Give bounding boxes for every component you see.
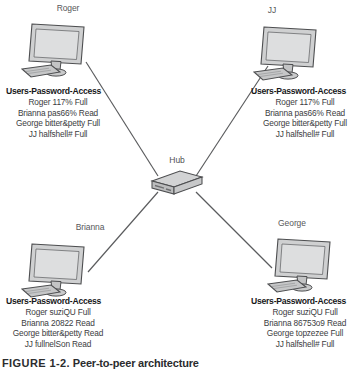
- credential-row: George topzezee Full: [251, 328, 359, 339]
- credential-row: Brianna 20822 Read: [6, 318, 110, 329]
- credentials-title: Users-Password-Access: [251, 296, 361, 307]
- node-label-george: George: [262, 218, 322, 228]
- credentials-title: Users-Password-Access: [6, 296, 166, 307]
- credential-row: JJ halfshell# Full: [6, 129, 110, 140]
- figure-caption: FIGURE 1-2. Peer-to-peer architecture: [2, 357, 361, 369]
- credentials-title: Users-Password-Access: [251, 86, 361, 97]
- credential-row: Brianna pas66% Read: [251, 108, 359, 119]
- credential-row: George bitter&petty Full: [6, 118, 110, 129]
- credentials-block-brianna: Users-Password-Access Roger suziQU Full …: [6, 296, 166, 349]
- desktop-computer-icon-roger: [18, 20, 94, 86]
- credential-row: Roger suziQU Full: [251, 307, 359, 318]
- credential-row: JJ halfshell# Full: [251, 339, 359, 350]
- desktop-computer-icon-jj: [248, 24, 324, 90]
- credential-row: George bitter&petty Read: [6, 328, 110, 339]
- figure-caption-text: Peer-to-peer architecture: [73, 357, 199, 369]
- credential-row: Roger suziQU Full: [6, 307, 110, 318]
- credential-row: Roger 117% Full: [6, 97, 110, 108]
- figure-number: FIGURE 1-2.: [2, 357, 70, 369]
- hub-node: Hub: [142, 155, 212, 205]
- credential-row: JJ fullnelSon Read: [6, 339, 110, 350]
- credential-row: Brianna 86753o9 Read: [251, 318, 359, 329]
- node-label-brianna: Brianna: [60, 222, 120, 232]
- credential-row: Brianna pas66% Read: [6, 108, 110, 119]
- credentials-block-jj: Users-Password-Access Roger 117% Full Br…: [251, 86, 361, 139]
- credential-row: George bitter&petty Full: [251, 118, 359, 129]
- credentials-block-roger: Users-Password-Access Roger 117% Full Br…: [6, 86, 166, 139]
- hub-label: Hub: [142, 155, 212, 165]
- credentials-title: Users-Password-Access: [6, 86, 166, 97]
- node-label-jj: JJ: [252, 5, 292, 15]
- credentials-block-george: Users-Password-Access Roger suziQU Full …: [251, 296, 361, 349]
- credential-row: Roger 117% Full: [251, 97, 359, 108]
- desktop-computer-icon-george: [262, 236, 338, 302]
- credential-row: JJ halfshell# Full: [251, 129, 359, 140]
- node-label-roger: Roger: [38, 3, 98, 13]
